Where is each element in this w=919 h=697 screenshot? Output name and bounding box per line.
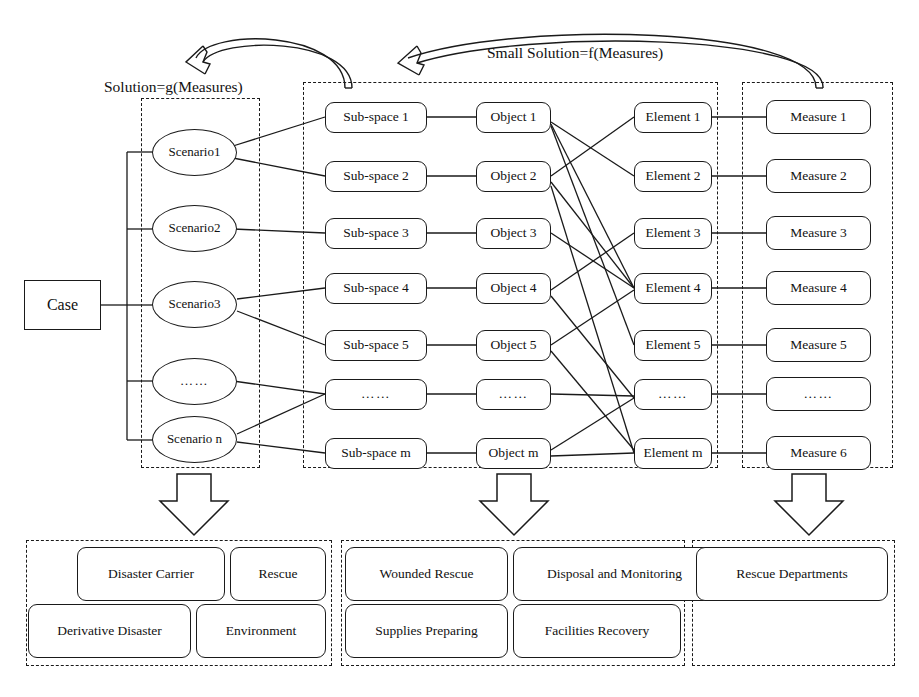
solution-formula-label: Solution=g(Measures)	[104, 78, 243, 96]
scenario-node-n[interactable]: Scenario n	[152, 416, 237, 463]
subspace-node-label: Sub-space 4	[343, 281, 409, 296]
object-node-label: Object 4	[490, 281, 536, 296]
subspace-node-5[interactable]: Sub-space 5	[325, 330, 427, 361]
down-arrow-middle	[480, 474, 548, 535]
element-node-m[interactable]: Element m	[634, 438, 712, 469]
measure-node-5[interactable]: Measure 5	[766, 328, 871, 362]
object-node-3[interactable]: Object 3	[476, 218, 551, 249]
outcome-label: Environment	[226, 624, 297, 639]
object-node-2[interactable]: Object 2	[476, 161, 551, 192]
scenario-node-label: ……	[180, 374, 209, 388]
outcome-label: Supplies Preparing	[375, 624, 477, 639]
small-solution-formula-label: Small Solution=f(Measures)	[487, 44, 663, 62]
object-node-4[interactable]: Object 4	[476, 273, 551, 304]
subspace-node-3[interactable]: Sub-space 3	[325, 218, 427, 249]
scenario-node-label: Scenario n	[167, 432, 222, 446]
subspace-node-label: ……	[361, 387, 391, 402]
scenario-node-label: Scenario2	[169, 221, 221, 235]
measure-node-label: Measure 4	[790, 281, 847, 296]
element-node-label: Element 5	[645, 338, 700, 353]
outcome-label: Rescue	[259, 567, 298, 582]
outcome-supplies-preparing[interactable]: Supplies Preparing	[345, 604, 508, 658]
element-node-1[interactable]: Element 1	[634, 102, 712, 133]
object-node-5[interactable]: Object 5	[476, 330, 551, 361]
outcome-label: Wounded Rescue	[380, 567, 474, 582]
subspace-node-4[interactable]: Sub-space 4	[325, 273, 427, 304]
scenario-node-label: Scenario3	[169, 297, 221, 311]
outcome-disaster-carrier[interactable]: Disaster Carrier	[77, 547, 225, 601]
measure-node-label: Measure 1	[790, 110, 847, 125]
object-node-1[interactable]: Object 1	[476, 102, 551, 133]
measure-node-2[interactable]: Measure 2	[766, 159, 871, 193]
object-node-label: Object 2	[490, 169, 536, 184]
object-node-label: Object m	[489, 446, 539, 461]
subspace-node-label: Sub-space 3	[343, 226, 409, 241]
measure-node-4[interactable]: Measure 4	[766, 271, 871, 305]
outcome-derivative-disaster[interactable]: Derivative Disaster	[28, 604, 191, 658]
subspace-node-label: Sub-space 2	[343, 169, 409, 184]
subspace-node-label: Sub-space 5	[343, 338, 409, 353]
measure-node-3[interactable]: Measure 3	[766, 216, 871, 250]
subspace-node-1[interactable]: Sub-space 1	[325, 102, 427, 133]
measure-node-label: ……	[804, 387, 834, 402]
element-node-4[interactable]: Element 4	[634, 273, 712, 304]
outcome-label: Disposal and Monitoring	[547, 567, 682, 582]
element-node-label: Element 3	[645, 226, 700, 241]
object-node-m[interactable]: Object m	[476, 438, 551, 469]
scenario-node-ellipsis[interactable]: ……	[152, 358, 237, 405]
element-node-5[interactable]: Element 5	[634, 330, 712, 361]
element-node-label: ……	[658, 387, 688, 402]
element-node-ellipsis[interactable]: ……	[634, 379, 712, 410]
subspace-node-ellipsis[interactable]: ……	[325, 379, 427, 410]
measure-node-label: Measure 2	[790, 169, 847, 184]
outcome-label: Facilities Recovery	[545, 624, 650, 639]
object-node-label: Object 3	[490, 226, 536, 241]
scenario-node-3[interactable]: Scenario3	[152, 281, 237, 328]
measure-node-6[interactable]: Measure 6	[766, 436, 871, 470]
measure-node-label: Measure 6	[790, 446, 847, 461]
subspace-node-label: Sub-space m	[341, 446, 410, 461]
subspace-node-2[interactable]: Sub-space 2	[325, 161, 427, 192]
measure-node-ellipsis[interactable]: ……	[766, 377, 871, 411]
object-node-label: Object 1	[490, 110, 536, 125]
element-node-label: Element 2	[645, 169, 700, 184]
outcome-rescue[interactable]: Rescue	[230, 547, 326, 601]
object-node-ellipsis[interactable]: ……	[476, 379, 551, 410]
outcome-label: Rescue Departments	[736, 567, 847, 582]
outcome-environment[interactable]: Environment	[196, 604, 326, 658]
object-node-label: ……	[499, 387, 529, 402]
subspace-node-label: Sub-space 1	[343, 110, 409, 125]
subspace-node-m[interactable]: Sub-space m	[325, 438, 427, 469]
element-node-label: Element m	[644, 446, 703, 461]
outcome-wounded-rescue[interactable]: Wounded Rescue	[345, 547, 508, 601]
case-node[interactable]: Case	[24, 280, 101, 330]
measure-node-label: Measure 3	[790, 226, 847, 241]
measure-node-label: Measure 5	[790, 338, 847, 353]
outcome-disposal-and-monitoring[interactable]: Disposal and Monitoring	[513, 547, 716, 601]
outcome-label: Derivative Disaster	[57, 624, 162, 639]
element-node-2[interactable]: Element 2	[634, 161, 712, 192]
outcome-facilities-recovery[interactable]: Facilities Recovery	[513, 604, 681, 658]
element-node-label: Element 4	[645, 281, 700, 296]
outcome-label: Disaster Carrier	[108, 567, 194, 582]
element-node-3[interactable]: Element 3	[634, 218, 712, 249]
scenario-node-2[interactable]: Scenario2	[152, 205, 237, 252]
down-arrow-right	[775, 474, 843, 535]
scenario-node-1[interactable]: Scenario1	[152, 129, 237, 176]
element-node-label: Element 1	[645, 110, 700, 125]
outcome-rescue-departments[interactable]: Rescue Departments	[696, 547, 888, 601]
down-arrow-left	[160, 474, 228, 535]
object-node-label: Object 5	[490, 338, 536, 353]
diagram-canvas: Solution=g(Measures) Small Solution=f(Me…	[0, 0, 919, 697]
scenario-node-label: Scenario1	[169, 145, 221, 159]
measure-node-1[interactable]: Measure 1	[766, 100, 871, 134]
case-node-label: Case	[47, 296, 78, 314]
